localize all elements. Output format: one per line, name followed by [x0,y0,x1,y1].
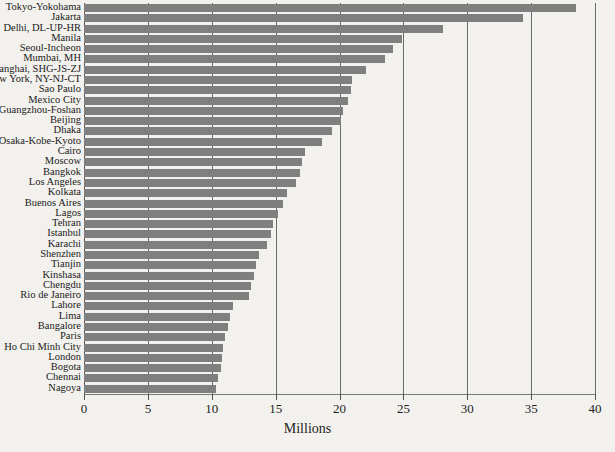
bar [84,179,296,187]
bar [84,344,223,352]
bar-row: Guangzhou-Foshan [0,106,615,117]
x-tick-label: 20 [320,401,360,416]
bar-row: Buenos Aires [0,199,615,210]
bar-row: Karachi [0,240,615,251]
bar-row: Lahore [0,301,615,312]
bar-row: Nagoya [0,384,615,395]
bar [84,323,228,331]
bar [84,158,302,166]
x-tick-label: 5 [128,401,168,416]
bar [84,148,305,156]
bar-row: Kinshasa [0,271,615,282]
bar [84,66,366,74]
bar-row: Tokyo-Yokohama [0,3,615,14]
bar [84,385,216,393]
bar-row: Chennai [0,373,615,384]
x-tick [531,394,532,400]
x-tick-label: 40 [575,401,615,416]
bar-row: Cairo [0,147,615,158]
bar-row: New York, NY-NJ-CT [0,75,615,86]
bar [84,25,443,33]
bar-row: Beijing [0,116,615,127]
bar [84,107,343,115]
bar-row: Delhi, DL-UP-HR [0,24,615,35]
bar-row: Rio de Janeiro [0,291,615,302]
x-tick [467,394,468,400]
x-tick-label: 25 [383,401,423,416]
bar [84,241,267,249]
bar [84,200,283,208]
bar-row: Lima [0,312,615,323]
bar-row: Ho Chi Minh City [0,343,615,354]
bar [84,169,300,177]
bar-row: London [0,353,615,364]
bar [84,374,218,382]
bar-row: Istanbul [0,229,615,240]
population-bar-chart: 0510152025303540 Tokyo-YokohamaJakartaDe… [0,0,615,452]
bar-row: Jakarta [0,13,615,24]
bar-row: Sao Paulo [0,85,615,96]
x-tick-label: 15 [256,401,296,416]
x-tick [403,394,404,400]
bar [84,35,402,43]
bar [84,45,393,53]
bar-row: Manila [0,34,615,45]
bar-row: Kolkata [0,188,615,199]
bar [84,86,351,94]
x-tick-label: 0 [64,401,104,416]
bar [84,364,221,372]
bar-row: Bangalore [0,322,615,333]
bar [84,333,225,341]
bar-row: Shenzhen [0,250,615,261]
bar [84,282,251,290]
bar-row: Bangkok [0,168,615,179]
bar-row: Moscow [0,157,615,168]
bar-row: Paris [0,332,615,343]
bar-row: Lagos [0,209,615,220]
bar [84,4,576,12]
bar-row: Mumbai, MH [0,54,615,65]
bar [84,210,278,218]
bar [84,97,348,105]
bar [84,189,287,197]
bar [84,354,222,362]
bar-row: Tehran [0,219,615,230]
bar [84,117,341,125]
x-tick [212,394,213,400]
x-tick [340,394,341,400]
bar [84,272,254,280]
bar [84,55,385,63]
bar-row: Los Angeles [0,178,615,189]
x-tick [148,394,149,400]
x-tick [84,394,85,400]
bar-row: Shanghai, SHG-JS-ZJ [0,65,615,76]
x-tick [276,394,277,400]
bar-row: Mexico City [0,96,615,107]
bar [84,138,322,146]
x-tick-label: 30 [447,401,487,416]
bar-row: Tianjin [0,260,615,271]
bar [84,230,271,238]
bar [84,261,256,269]
category-label: Nagoya [0,382,81,393]
bar [84,127,332,135]
bar [84,251,259,259]
bar-row: Bogota [0,363,615,374]
x-tick [595,394,596,400]
x-tick-label: 10 [192,401,232,416]
x-tick-label: 35 [511,401,551,416]
bar [84,302,233,310]
bar-row: Chengdu [0,281,615,292]
bar [84,76,352,84]
x-axis-label: Millions [0,421,615,437]
bar-row: Dhaka [0,126,615,137]
bar [84,14,523,22]
bar-row: Seoul-Incheon [0,44,615,55]
bar [84,313,230,321]
bar [84,220,273,228]
bar [84,292,249,300]
bar-row: Osaka-Kobe-Kyoto [0,137,615,148]
